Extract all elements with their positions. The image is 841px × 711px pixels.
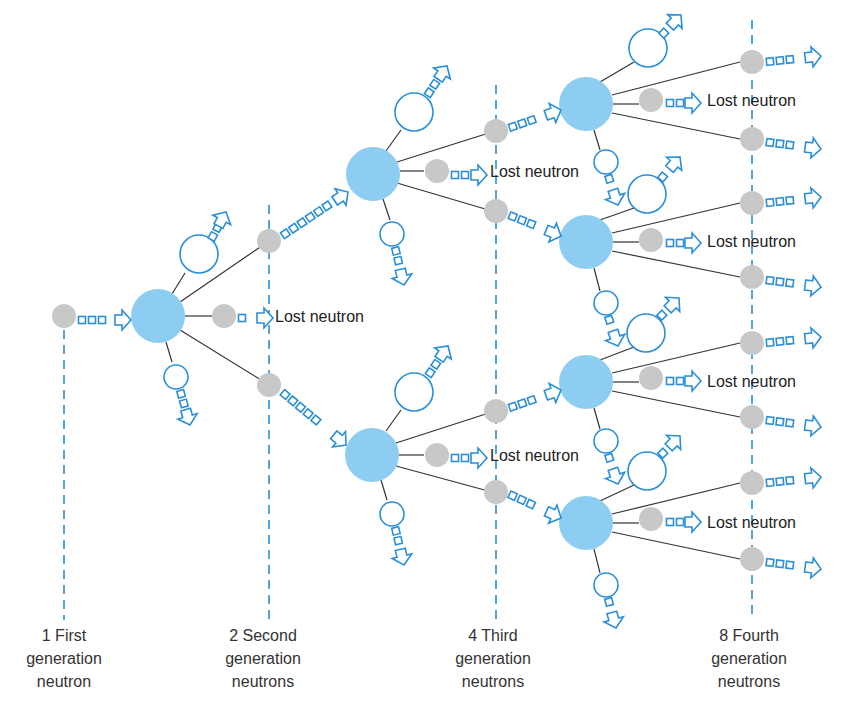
gen4-line3: neutrons <box>718 673 780 690</box>
lost-label: Lost neutron <box>490 163 579 180</box>
lost-label: Lost neutron <box>275 308 364 325</box>
gen2-line3: neutrons <box>232 673 294 690</box>
gen3-line2: generation <box>455 650 531 667</box>
chain-reaction-diagram: Lost neutron Lost neutron Lost neutron L… <box>0 0 841 711</box>
generation-labels: 1 First generation neutron 2 Second gene… <box>26 627 787 690</box>
gen1-line1: 1 First <box>42 627 87 644</box>
gen2-line2: generation <box>225 650 301 667</box>
lost-label: Lost neutron <box>707 92 796 109</box>
lost-label: Lost neutron <box>707 233 796 250</box>
gen3-line1: 4 Third <box>468 627 518 644</box>
gen4-line1: 8 Fourth <box>719 627 779 644</box>
gen2-line1: 2 Second <box>229 627 297 644</box>
gen1-line3: neutron <box>37 673 91 690</box>
nuclei <box>131 77 613 550</box>
gen3-line3: neutrons <box>462 673 524 690</box>
lost-label: Lost neutron <box>707 373 796 390</box>
lost-label: Lost neutron <box>490 447 579 464</box>
gen3-fission-lines <box>594 62 740 573</box>
gen4-line2: generation <box>711 650 787 667</box>
lost-label: Lost neutron <box>707 514 796 531</box>
gen1-line2: generation <box>26 650 102 667</box>
